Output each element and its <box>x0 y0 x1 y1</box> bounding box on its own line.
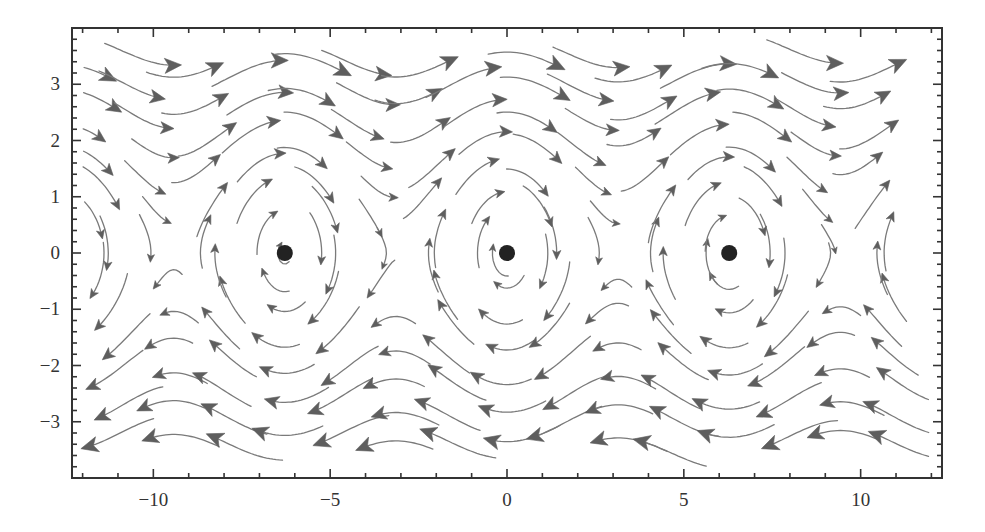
arrow-icon <box>212 93 229 106</box>
x-tick-label: −10 <box>138 489 168 510</box>
arrow-icon <box>482 216 490 225</box>
streamline <box>744 167 781 205</box>
x-tick-label: 5 <box>679 489 689 510</box>
streamline <box>416 400 480 431</box>
arrow-icon <box>494 281 503 289</box>
streamline <box>403 179 440 218</box>
streamline <box>83 167 119 208</box>
arrow-icon <box>261 179 272 188</box>
streamline <box>652 311 692 353</box>
arrow-icon <box>86 378 101 389</box>
arrow-icon <box>544 310 554 321</box>
arrow-icon <box>483 435 501 450</box>
streamline <box>663 249 675 300</box>
streamline <box>91 242 104 297</box>
arrow-icon <box>321 373 336 386</box>
streamline <box>758 275 788 326</box>
fixed-point-marker <box>721 245 737 261</box>
streamline <box>359 199 381 235</box>
arrow-icon <box>386 98 401 111</box>
arrow-icon <box>267 305 277 314</box>
y-tick-label: −2 <box>40 355 60 376</box>
streamline <box>883 275 907 322</box>
arrow-icon <box>816 279 823 288</box>
streamline <box>643 376 700 409</box>
arrow-icon <box>324 192 334 204</box>
streamline <box>822 225 836 253</box>
arrow-icon <box>590 431 608 445</box>
streamline <box>323 346 378 384</box>
arrow-icon <box>264 397 280 410</box>
arrow-icon <box>478 405 494 418</box>
streamline <box>478 218 489 268</box>
streamline <box>309 272 338 323</box>
streamline <box>865 306 902 346</box>
arrow-icon <box>820 395 836 408</box>
streamline <box>409 150 454 188</box>
streamline <box>651 219 659 272</box>
arrow-icon <box>316 342 329 354</box>
streamline <box>211 341 257 377</box>
streamline <box>203 309 240 349</box>
arrow-icon <box>142 429 160 443</box>
arrow-icon <box>145 339 157 349</box>
streamline <box>545 262 570 319</box>
arrow-icon <box>874 91 891 104</box>
y-tick-label: −1 <box>40 298 60 319</box>
arrow-icon <box>164 58 181 73</box>
arrow-icon <box>650 310 661 322</box>
arrow-icon <box>428 365 443 378</box>
arrow-icon <box>208 154 220 166</box>
stream-plot: −10−50510 −3−2−10123 <box>0 0 985 532</box>
y-tick-label: 0 <box>51 242 61 263</box>
arrow-icon <box>319 92 336 106</box>
y-tick-label: −3 <box>40 411 60 432</box>
arrow-icon <box>423 335 436 347</box>
arrow-icon <box>315 157 327 169</box>
arrow-icon <box>217 182 227 193</box>
streamline <box>544 207 557 257</box>
streamline <box>531 303 570 346</box>
streamline <box>840 121 897 149</box>
arrow-icon <box>553 87 570 101</box>
arrow-icon <box>202 307 213 318</box>
arrow-icon <box>773 195 782 207</box>
streamline <box>865 402 929 432</box>
streamline <box>315 416 389 445</box>
arrow-icon <box>371 406 388 419</box>
streamline <box>540 234 547 287</box>
streamline <box>545 376 608 409</box>
fixed-point-marker <box>277 245 293 261</box>
streamline <box>310 213 322 263</box>
streamline <box>558 132 605 164</box>
arrow-icon <box>613 61 630 76</box>
arrow-icon <box>367 289 375 299</box>
y-tick-label: 1 <box>51 186 61 207</box>
arrow-icon <box>152 368 166 379</box>
streamline <box>317 307 359 353</box>
arrow-icon <box>697 429 715 443</box>
arrow-icon <box>880 180 890 191</box>
y-tick-label: 2 <box>51 130 61 151</box>
arrow-icon <box>870 152 883 164</box>
arrow-icon <box>499 126 512 138</box>
fixed-point-marker <box>499 245 515 261</box>
streamline <box>817 243 831 286</box>
streamline <box>434 211 445 268</box>
streamline <box>495 276 524 289</box>
arrow-icon <box>153 281 161 290</box>
arrow-icon <box>708 369 722 380</box>
arrow-icon <box>601 370 615 381</box>
streamline <box>758 383 821 417</box>
streamline <box>647 282 674 325</box>
streamline <box>588 218 599 263</box>
streamline <box>439 301 474 344</box>
arrow-icon <box>102 348 115 360</box>
arrow-icon <box>155 186 166 194</box>
y-tick-label: 3 <box>51 73 61 94</box>
arrow-icon <box>723 151 735 161</box>
streamline <box>760 214 770 265</box>
arrow-icon <box>871 337 884 349</box>
arrow-icon <box>647 128 661 140</box>
arrow-icon <box>816 183 827 192</box>
